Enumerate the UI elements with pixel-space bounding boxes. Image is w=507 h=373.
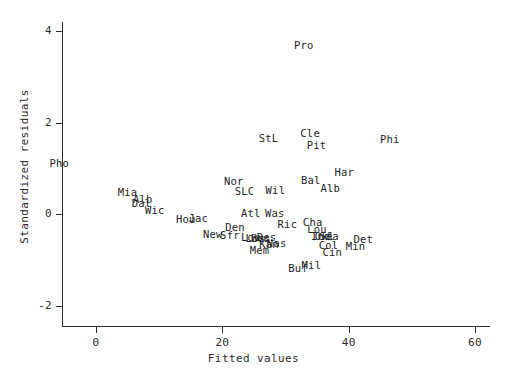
x-axis-spine — [62, 326, 490, 327]
y-axis-title: Standardized residuals — [18, 57, 31, 277]
data-point-label: Bal — [301, 175, 321, 186]
data-point-label: Alb — [321, 183, 341, 194]
data-point-label: Cin — [322, 246, 342, 257]
x-tick-mark — [349, 327, 350, 333]
data-point-label: Min — [346, 241, 366, 252]
x-tick-mark — [475, 327, 476, 333]
data-point-label: Nas — [267, 238, 287, 249]
data-point-label: Pit — [307, 140, 327, 151]
x-tick-label: 40 — [342, 336, 356, 349]
plot-area — [62, 22, 487, 326]
data-point-label: Pho — [50, 158, 70, 169]
y-tick-label: 0 — [45, 207, 52, 220]
data-point-label: Cle — [300, 127, 320, 138]
data-point-label: Pro — [294, 39, 314, 50]
data-point-label: Mil — [302, 260, 322, 271]
x-tick-mark — [222, 327, 223, 333]
y-tick-label: 2 — [45, 116, 52, 129]
x-tick-label: 60 — [468, 336, 482, 349]
data-point-label: SLC — [235, 186, 255, 197]
data-point-label: Phi — [380, 134, 400, 145]
y-tick-label: 4 — [45, 24, 52, 37]
data-point-label: Mem — [250, 244, 270, 255]
data-point-label: Ric — [278, 218, 298, 229]
data-point-label: Wil — [266, 185, 286, 196]
data-point-label: Wic — [145, 205, 165, 216]
data-point-label: Jac — [189, 213, 209, 224]
x-tick-label: 0 — [93, 336, 100, 349]
data-point-label: Har — [334, 167, 354, 178]
scatter-plot-figure: -2024 0204060 Standardized residuals Fit… — [0, 0, 507, 373]
x-tick-mark — [96, 327, 97, 333]
x-tick-label: 20 — [215, 336, 229, 349]
data-point-label: Sfr — [220, 230, 240, 241]
data-point-label: Atl — [241, 208, 261, 219]
x-axis-title: Fitted values — [0, 352, 507, 365]
y-tick-label: -2 — [38, 299, 52, 312]
data-point-label: StL — [259, 133, 279, 144]
